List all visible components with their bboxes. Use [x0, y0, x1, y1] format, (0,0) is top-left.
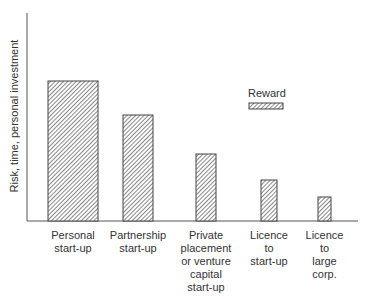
bar-3: [196, 154, 216, 221]
bar-1: [48, 81, 98, 221]
bars-group: [48, 81, 331, 221]
bar-2: [123, 115, 153, 221]
y-axis-label: Risk, time, personal investment: [8, 26, 20, 206]
bar-4: [261, 180, 277, 221]
bar-5: [318, 197, 331, 221]
legend-label-reward: Reward: [248, 87, 286, 99]
category-label-5: Licencetolargecorp.: [285, 229, 365, 281]
legend-swatch-reward: [249, 103, 283, 109]
